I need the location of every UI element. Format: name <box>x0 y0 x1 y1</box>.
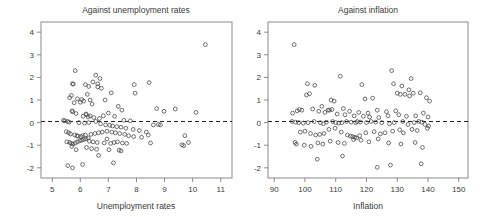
data-point <box>349 120 353 124</box>
data-point <box>98 77 102 81</box>
data-point <box>425 96 429 100</box>
data-point <box>107 148 111 152</box>
data-point <box>375 108 379 112</box>
data-point <box>375 165 379 169</box>
data-point <box>313 83 317 87</box>
data-point <box>66 164 70 168</box>
data-point <box>418 91 422 95</box>
data-point <box>415 129 419 133</box>
x-axis-title: Inflation <box>353 201 383 211</box>
data-point <box>102 141 106 145</box>
data-point <box>125 142 129 146</box>
data-point <box>132 135 136 139</box>
data-point <box>137 129 141 133</box>
data-point <box>385 110 389 114</box>
data-point <box>107 111 111 115</box>
y-tick-label: 2 <box>30 73 35 82</box>
data-point <box>133 91 137 95</box>
data-point <box>93 132 97 136</box>
data-point <box>112 161 116 165</box>
data-point <box>162 109 166 113</box>
panel-title: Against unemployment rates <box>82 5 190 15</box>
data-point <box>390 69 394 73</box>
data-point <box>360 83 364 87</box>
plot-frame <box>268 22 468 178</box>
data-point <box>91 140 95 144</box>
data-point <box>303 129 307 133</box>
data-point <box>81 114 85 118</box>
data-point <box>342 142 346 146</box>
data-point <box>403 92 407 96</box>
data-point <box>81 163 85 167</box>
data-point <box>118 132 122 136</box>
data-point <box>91 80 95 84</box>
y-tick-label: -1 <box>254 141 262 150</box>
y-tick-label: 3 <box>30 51 35 60</box>
data-point <box>314 133 318 137</box>
data-point <box>358 134 362 138</box>
data-point <box>361 114 365 118</box>
data-point <box>428 99 432 103</box>
x-tick-label: 5 <box>50 185 55 194</box>
data-point <box>317 109 321 113</box>
y-tick-label: -2 <box>27 164 35 173</box>
x-tick-label: 10 <box>188 185 197 194</box>
data-point <box>421 146 425 150</box>
data-point <box>408 94 412 98</box>
data-point <box>333 126 337 130</box>
data-point <box>305 82 309 86</box>
data-point <box>114 131 118 135</box>
data-point <box>336 141 340 145</box>
data-point <box>88 98 92 102</box>
data-point <box>155 107 159 111</box>
data-point <box>128 119 132 123</box>
x-tick-label: 120 <box>360 185 374 194</box>
data-point <box>121 141 125 145</box>
data-point <box>318 132 322 136</box>
data-point <box>406 123 410 127</box>
data-point <box>321 142 325 146</box>
y-tick-label: 4 <box>30 28 35 37</box>
data-point <box>105 129 109 133</box>
data-point <box>309 132 313 136</box>
data-point <box>409 77 413 81</box>
data-point <box>131 127 135 131</box>
data-point <box>412 121 416 125</box>
x-tick-label: 110 <box>329 185 342 194</box>
data-point <box>147 81 151 85</box>
data-point <box>74 148 78 152</box>
y-tick-label: 1 <box>30 96 35 105</box>
x-tick-label: 140 <box>421 185 435 194</box>
data-point <box>414 114 418 118</box>
y-tick-label: 0 <box>30 119 35 128</box>
data-point <box>341 154 345 158</box>
data-point <box>203 43 207 47</box>
y-tick-label: -1 <box>27 141 35 150</box>
data-point <box>291 111 295 115</box>
data-point <box>113 114 117 118</box>
data-point <box>328 139 332 143</box>
data-point <box>116 104 120 108</box>
data-point <box>338 74 342 78</box>
data-point <box>119 125 123 129</box>
data-point <box>407 88 411 92</box>
data-point <box>325 120 329 124</box>
x-tick-label: 9 <box>162 185 167 194</box>
data-point <box>71 166 75 170</box>
x-tick-label: 150 <box>452 185 466 194</box>
data-point <box>352 114 356 118</box>
data-point <box>300 108 304 112</box>
y-tick-label: 3 <box>257 51 262 60</box>
y-tick-label: 2 <box>257 73 262 82</box>
data-point <box>100 130 104 134</box>
data-point <box>120 108 124 112</box>
y-tick-label: 4 <box>257 28 262 37</box>
data-point <box>383 131 387 135</box>
data-point <box>151 123 155 127</box>
data-point <box>323 111 327 115</box>
data-point <box>421 111 425 115</box>
data-point <box>398 128 402 132</box>
data-point <box>85 146 89 150</box>
data-point <box>339 130 343 134</box>
data-point <box>98 117 102 121</box>
